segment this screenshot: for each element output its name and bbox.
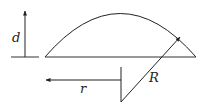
sphere-radius-label: R <box>149 71 159 84</box>
spherical-cap-diagram: d r R <box>0 0 207 109</box>
height-label: d <box>12 31 20 44</box>
diagram-graphics <box>0 0 207 109</box>
cap-arc <box>45 14 196 58</box>
base-radius-label: r <box>80 82 86 95</box>
